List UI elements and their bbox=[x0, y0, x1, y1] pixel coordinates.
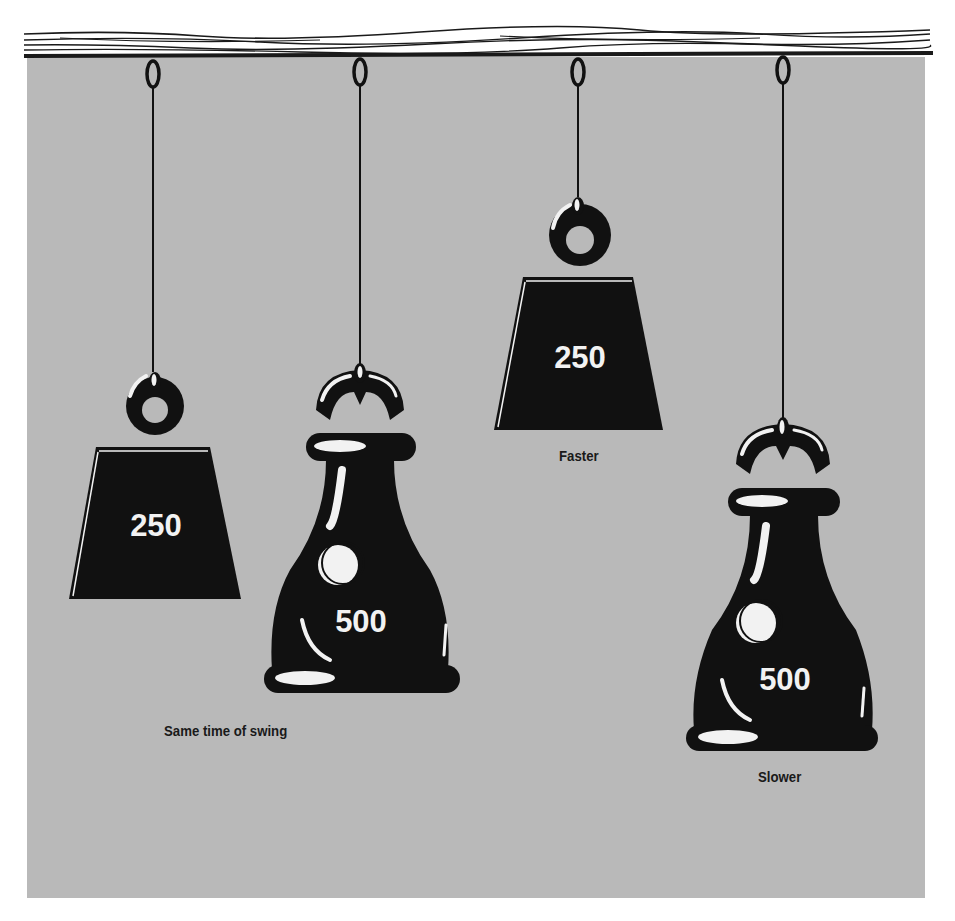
weight-label: 250 bbox=[554, 340, 606, 375]
hook-eyelet-icon bbox=[147, 61, 159, 87]
weight-250-block-left: 250 bbox=[69, 372, 241, 599]
diagram-artwork: 250 500 bbox=[0, 0, 955, 921]
weight-label: 500 bbox=[759, 662, 811, 697]
wooden-beam bbox=[24, 26, 933, 56]
weight-label: 500 bbox=[335, 604, 387, 639]
weight-500-bottle-left: 500 bbox=[264, 363, 460, 693]
weight-label: 250 bbox=[130, 508, 182, 543]
hook-eyelet-icon bbox=[572, 59, 584, 85]
weight-250-block-right: 250 bbox=[494, 197, 663, 430]
caption-faster: Faster bbox=[559, 447, 599, 464]
pendulum-diagram: 250 500 bbox=[0, 0, 955, 921]
weight-500-bottle-right: 500 bbox=[686, 417, 878, 751]
hooks-and-strings bbox=[147, 57, 789, 418]
hook-eyelet-icon bbox=[777, 57, 789, 83]
hook-eyelet-icon bbox=[354, 59, 366, 85]
caption-same-time: Same time of swing bbox=[164, 722, 287, 739]
caption-slower: Slower bbox=[758, 768, 801, 785]
